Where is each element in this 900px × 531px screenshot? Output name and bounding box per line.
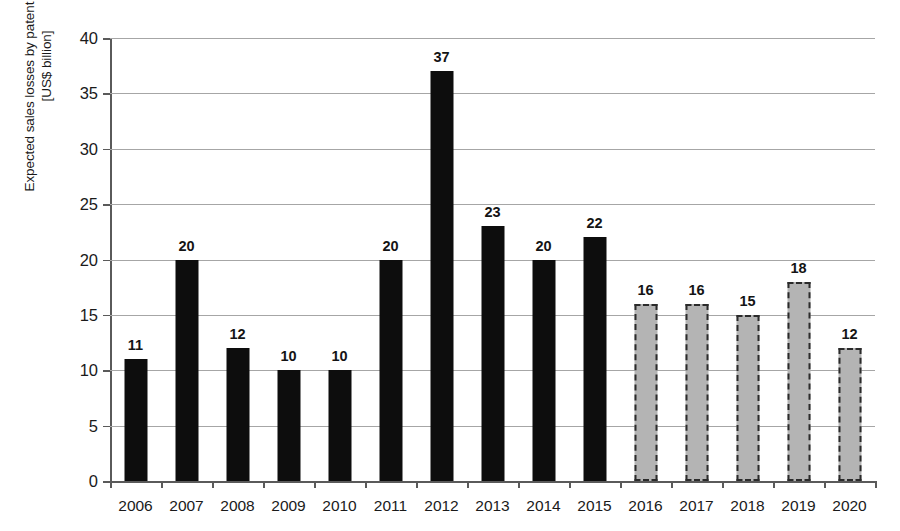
x-tick-label-2020: 2020 — [832, 497, 866, 515]
y-tick-label: 35 — [80, 84, 98, 103]
x-tick-label-2006: 2006 — [118, 497, 152, 515]
y-tick-mark — [103, 481, 110, 483]
bar-group: 20 — [518, 38, 569, 481]
y-tick-mark — [103, 93, 110, 95]
bar-value-label-2019: 18 — [790, 260, 806, 276]
y-tick-mark — [103, 204, 110, 206]
y-tick-label: 30 — [80, 139, 98, 158]
bar-2006[interactable] — [124, 359, 147, 481]
x-tick-label-2009: 2009 — [271, 497, 305, 515]
bar-group: 10 — [263, 38, 314, 481]
y-tick-label: 15 — [80, 305, 98, 324]
x-tick-mark — [671, 481, 673, 488]
x-tick-label-2008: 2008 — [220, 497, 254, 515]
y-tick-mark — [103, 315, 110, 317]
x-tick-label-2007: 2007 — [169, 497, 203, 515]
bar-group: 20 — [365, 38, 416, 481]
y-tick-mark — [103, 38, 110, 40]
x-tick-mark — [416, 481, 418, 488]
bar-2007[interactable] — [175, 260, 198, 482]
bar-group: 15 — [722, 38, 773, 481]
y-tick-mark — [103, 149, 110, 151]
y-tick-label: 5 — [89, 416, 98, 435]
bar-group: 16 — [671, 38, 722, 481]
bar-value-label-2009: 10 — [280, 348, 296, 364]
bar-series: 112012101020372320221616151812 — [110, 38, 875, 481]
bar-2008[interactable] — [226, 348, 249, 481]
x-tick-mark-end — [875, 481, 877, 488]
bar-group: 20 — [161, 38, 212, 481]
bar-value-label-2006: 11 — [128, 337, 143, 353]
gridline — [110, 481, 875, 483]
x-tick-label-2014: 2014 — [526, 497, 560, 515]
bar-2012[interactable] — [430, 71, 453, 481]
bar-value-label-2010: 10 — [331, 348, 347, 364]
x-tick-mark — [110, 481, 112, 488]
bar-value-label-2007: 20 — [178, 238, 194, 254]
bar-2019[interactable] — [787, 282, 810, 481]
bar-group: 16 — [620, 38, 671, 481]
bar-2016[interactable] — [634, 304, 657, 481]
bar-group: 22 — [569, 38, 620, 481]
x-tick-label-2015: 2015 — [577, 497, 611, 515]
bar-value-label-2012: 37 — [433, 49, 449, 65]
bar-group: 12 — [824, 38, 875, 481]
bar-2011[interactable] — [379, 260, 402, 482]
x-tick-mark — [569, 481, 571, 488]
x-tick-mark — [620, 481, 622, 488]
bar-2020[interactable] — [838, 348, 861, 481]
bar-2017[interactable] — [685, 304, 708, 481]
y-axis-title-line-1: Expected sales losses by patent expirati… — [21, 0, 38, 191]
x-tick-mark — [365, 481, 367, 488]
x-tick-label-2016: 2016 — [628, 497, 662, 515]
y-tick-mark — [103, 370, 110, 372]
bar-group: 23 — [467, 38, 518, 481]
x-tick-mark — [773, 481, 775, 488]
bar-value-label-2015: 22 — [586, 215, 602, 231]
plot-area: 0510152025303540 11201210102037232022161… — [110, 38, 875, 481]
x-tick-mark — [518, 481, 520, 488]
bar-2014[interactable] — [532, 260, 555, 482]
bar-value-label-2013: 23 — [484, 204, 500, 220]
y-tick-mark — [103, 260, 110, 262]
bar-2013[interactable] — [481, 226, 504, 481]
y-tick-mark — [103, 426, 110, 428]
x-tick-label-2012: 2012 — [424, 497, 458, 515]
bar-group: 37 — [416, 38, 467, 481]
bar-value-label-2016: 16 — [637, 282, 653, 298]
x-tick-mark — [722, 481, 724, 488]
y-tick-label: 10 — [80, 361, 98, 380]
bar-group: 10 — [314, 38, 365, 481]
x-tick-label-2017: 2017 — [679, 497, 713, 515]
bar-2015[interactable] — [583, 237, 606, 481]
bar-group: 12 — [212, 38, 263, 481]
bar-value-label-2011: 20 — [382, 238, 398, 254]
y-tick-label: 25 — [80, 195, 98, 214]
x-tick-label-2013: 2013 — [475, 497, 509, 515]
x-tick-mark — [212, 481, 214, 488]
bar-chart: Expected sales losses by patent expirati… — [0, 0, 900, 531]
y-tick-label: 20 — [80, 250, 98, 269]
bar-value-label-2014: 20 — [535, 238, 551, 254]
x-tick-mark — [467, 481, 469, 488]
x-tick-label-2011: 2011 — [374, 497, 407, 515]
bar-value-label-2017: 16 — [688, 282, 704, 298]
bar-value-label-2020: 12 — [841, 326, 857, 342]
y-axis-title: Expected sales losses by patent expirati… — [10, 0, 66, 301]
y-tick-label: 0 — [89, 472, 98, 491]
y-tick-label: 40 — [80, 29, 98, 48]
bar-2018[interactable] — [736, 315, 759, 481]
y-axis-title-line-2: [US$ billion] — [38, 31, 55, 102]
bar-group: 11 — [110, 38, 161, 481]
x-tick-label-2019: 2019 — [781, 497, 815, 515]
x-tick-mark — [824, 481, 826, 488]
x-tick-mark — [161, 481, 163, 488]
x-tick-label-2010: 2010 — [322, 497, 356, 515]
bar-group: 18 — [773, 38, 824, 481]
bar-2010[interactable] — [328, 370, 351, 481]
bar-2009[interactable] — [277, 370, 300, 481]
bar-value-label-2018: 15 — [739, 293, 755, 309]
bar-value-label-2008: 12 — [229, 326, 245, 342]
x-tick-mark — [263, 481, 265, 488]
x-tick-label-2018: 2018 — [730, 497, 764, 515]
